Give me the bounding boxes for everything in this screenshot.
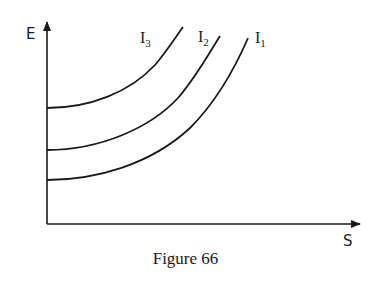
y-axis-label: E bbox=[26, 25, 35, 43]
chart-canvas: E S I1I2I3 bbox=[0, 0, 371, 284]
curve-label-i2: I2 bbox=[198, 28, 209, 48]
curve-label-i3: I3 bbox=[140, 29, 151, 49]
curve-i3 bbox=[47, 27, 183, 108]
curve-i2 bbox=[47, 36, 220, 150]
curve-label-i1: I1 bbox=[255, 29, 266, 49]
curves-group: I1I2I3 bbox=[47, 27, 266, 180]
curve-i1 bbox=[47, 38, 248, 180]
x-axis-label: S bbox=[343, 232, 353, 250]
figure-caption: Figure 66 bbox=[0, 249, 371, 269]
